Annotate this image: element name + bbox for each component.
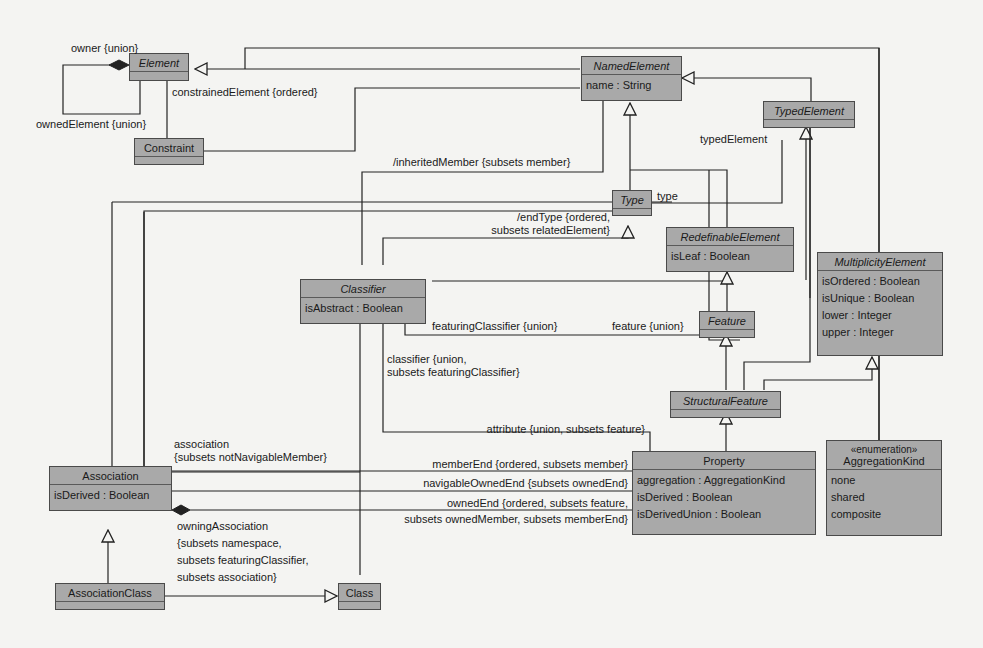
class-name: Association — [50, 467, 171, 485]
label-line: classifier {union, — [387, 353, 520, 366]
class-element[interactable]: Element — [129, 53, 189, 81]
label-navigable-owned-end: navigableOwnedEnd {subsets ownedEnd} — [390, 477, 628, 490]
class-name: MultiplicityElement — [818, 253, 942, 271]
label-feature: feature {union} — [612, 320, 684, 333]
class-name: NamedElement — [582, 57, 681, 75]
class-class[interactable]: Class — [338, 583, 381, 610]
attribute: isDerived : Boolean — [637, 489, 811, 506]
label-line: subsets featuringClassifier} — [387, 366, 520, 379]
label-line: association — [174, 438, 327, 451]
label-line: owningAssociation — [177, 518, 308, 535]
class-multiplicity-element[interactable]: MultiplicityElement isOrdered : Boolean … — [817, 252, 943, 356]
class-type[interactable]: Type — [612, 190, 652, 216]
class-structural-feature[interactable]: StructuralFeature — [670, 391, 781, 418]
class-typed-element[interactable]: TypedElement — [763, 101, 855, 128]
attribute: isLeaf : Boolean — [671, 248, 789, 265]
label-owning-association: owningAssociation {subsets namespace, su… — [177, 518, 308, 586]
attribute: name : String — [586, 77, 677, 94]
label-line: subsets ownedMember, subsets memberEnd} — [360, 513, 628, 526]
stereotype: «enumeration» — [827, 441, 941, 455]
label-type: type — [657, 190, 678, 203]
class-name: AssociationClass — [56, 584, 164, 602]
class-name: Class — [339, 584, 380, 602]
label-association: association {subsets notNavigableMember} — [174, 438, 327, 464]
class-name: StructuralFeature — [671, 392, 780, 410]
label-featuring-classifier: featuringClassifier {union} — [432, 320, 557, 333]
attribute: lower : Integer — [822, 307, 938, 324]
enum-literal: shared — [831, 489, 937, 506]
class-name: Element — [130, 54, 188, 72]
class-constraint[interactable]: Constraint — [134, 138, 204, 165]
label-constrained-element: constrainedElement {ordered} — [172, 86, 318, 99]
label-line: {subsets namespace, — [177, 535, 308, 552]
enum-aggregation-kind[interactable]: «enumeration» AggregationKind none share… — [826, 440, 942, 536]
attribute: isUnique : Boolean — [822, 290, 938, 307]
class-redefinable-element[interactable]: RedefinableElement isLeaf : Boolean — [666, 227, 794, 272]
label-line: /endType {ordered, — [450, 211, 610, 224]
class-association[interactable]: Association isDerived : Boolean — [49, 466, 172, 511]
class-name: Classifier — [301, 280, 425, 298]
class-name: Feature — [700, 312, 754, 330]
label-owned-end: ownedEnd {ordered, subsets feature, subs… — [360, 497, 628, 526]
label-classifier: classifier {union, subsets featuringClas… — [387, 353, 520, 379]
class-property[interactable]: Property aggregation : AggregationKind i… — [632, 451, 816, 535]
class-feature[interactable]: Feature — [699, 311, 755, 338]
enum-literal: composite — [831, 506, 937, 523]
label-owner: owner {union} — [71, 42, 138, 55]
label-line: subsets relatedElement} — [450, 224, 610, 237]
label-line: subsets featuringClassifier, — [177, 552, 308, 569]
label-typed-element: typedElement — [700, 133, 767, 146]
label-inherited-member: /inheritedMember {subsets member} — [393, 156, 570, 169]
class-named-element[interactable]: NamedElement name : String — [581, 56, 682, 101]
label-owned-element: ownedElement {union} — [36, 118, 146, 131]
attribute: isOrdered : Boolean — [822, 273, 938, 290]
class-name: Constraint — [135, 139, 203, 157]
class-association-class[interactable]: AssociationClass — [55, 583, 165, 610]
label-member-end: memberEnd {ordered, subsets member} — [390, 458, 628, 471]
class-classifier[interactable]: Classifier isAbstract : Boolean — [300, 279, 426, 324]
attribute: upper : Integer — [822, 324, 938, 341]
attribute: isAbstract : Boolean — [305, 300, 421, 317]
label-end-type: /endType {ordered, subsets relatedElemen… — [450, 211, 610, 237]
label-line: {subsets notNavigableMember} — [174, 451, 327, 464]
enum-literal: none — [831, 472, 937, 489]
class-name: TypedElement — [764, 102, 854, 120]
label-attribute: attribute {union, subsets feature} — [440, 423, 645, 436]
composition-diamond-icon — [172, 505, 190, 515]
composition-diamond-icon — [109, 60, 129, 70]
attribute: isDerivedUnion : Boolean — [637, 506, 811, 523]
label-line: ownedEnd {ordered, subsets feature, — [360, 497, 628, 510]
label-line: subsets association} — [177, 569, 308, 586]
class-name: Property — [633, 452, 815, 470]
class-name: RedefinableElement — [667, 228, 793, 246]
attribute: aggregation : AggregationKind — [637, 472, 811, 489]
class-name: AggregationKind — [827, 455, 941, 470]
class-name: Type — [613, 191, 651, 209]
attribute: isDerived : Boolean — [54, 487, 167, 504]
